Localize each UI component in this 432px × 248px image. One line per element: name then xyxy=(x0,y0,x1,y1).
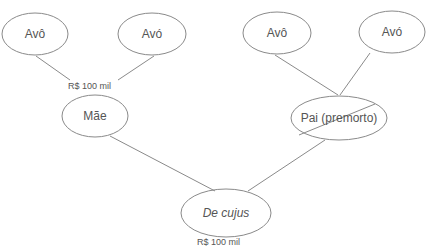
deceased-amount: R$ 100 mil xyxy=(197,237,240,247)
grandmother-maternal-node: Avó xyxy=(118,13,186,55)
grandfather-paternal-node: Avô xyxy=(243,12,311,54)
grandmother-paternal-node: Avó xyxy=(359,11,425,53)
father-node: Pai (premorto) xyxy=(291,96,387,140)
deceased-node: De cujus xyxy=(181,189,271,237)
node-label: Mãe xyxy=(83,109,106,123)
node-label: De cujus xyxy=(203,206,250,220)
node-label: Avó xyxy=(382,25,402,39)
maternal-grandparents-amount: R$ 100 mil xyxy=(68,81,111,91)
mother-node: Mãe xyxy=(62,95,128,137)
grandfather-maternal-node: Avô xyxy=(2,13,68,55)
node-label: Avô xyxy=(25,27,45,41)
node-label: Avó xyxy=(142,27,162,41)
node-label: Pai (premorto) xyxy=(301,111,378,125)
node-label: Avô xyxy=(267,26,287,40)
